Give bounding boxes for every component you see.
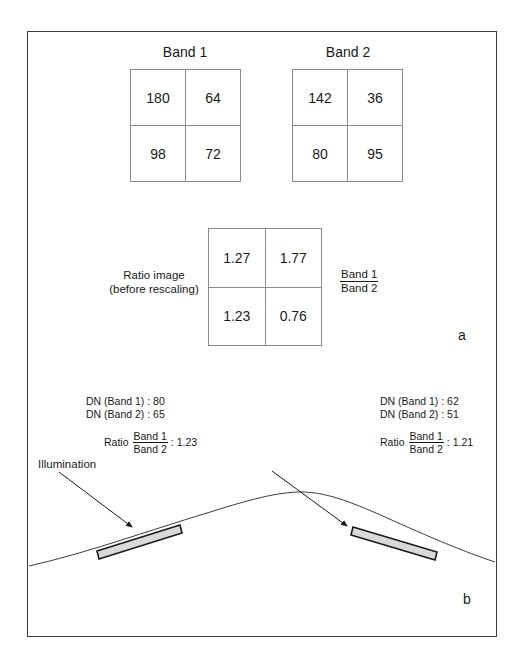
right-slope-facet	[351, 527, 437, 560]
terrain-diagram	[27, 31, 497, 637]
left-slope-facet	[97, 525, 182, 559]
running-header: ENHANCING THE IMAGERY	[10, 0, 141, 1]
illumination-arrow-left	[59, 472, 132, 527]
illumination-arrow-right	[272, 471, 347, 526]
panel-b-letter: b	[463, 591, 471, 607]
